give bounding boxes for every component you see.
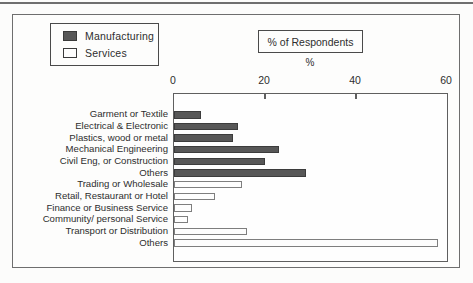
legend-swatch-services [63, 48, 77, 58]
category-label-others-11: Others [0, 237, 168, 248]
bar-manufacturing-garment-or-textile [174, 111, 201, 119]
category-label-finance-or-business-service-8: Finance or Business Service [0, 202, 168, 213]
category-label-community-personal-service-9: Community/ personal Service [0, 213, 168, 224]
chart-title-box: % of Respondents [258, 30, 363, 53]
legend-label-services: Services [85, 47, 127, 59]
plot-area [173, 93, 448, 262]
category-label-trading-or-wholesale-6: Trading or Wholesale [0, 178, 168, 189]
bar-manufacturing-plastics-wood-or-metal [174, 134, 233, 142]
category-label-others-5: Others [0, 167, 168, 178]
bar-services-retail-restaurant-or-hotel [174, 193, 215, 201]
bar-services-transport-or-distribution [174, 228, 247, 236]
category-label-electrical-electronic-1: Electrical & Electronic [0, 120, 168, 131]
category-label-plastics-wood-or-metal-2: Plastics, wood or metal [0, 132, 168, 143]
category-label-mechanical-engineering-3: Mechanical Engineering [0, 143, 168, 154]
legend-item-manufacturing: Manufacturing [63, 30, 158, 42]
legend-swatch-manufacturing [63, 31, 77, 41]
bar-services-others [174, 239, 438, 247]
bar-manufacturing-mechanical-engineering [174, 146, 279, 154]
x-axis-unit-label: % [306, 57, 315, 68]
bar-services-finance-or-business-service [174, 204, 192, 212]
figure-canvas: Manufacturing Services % of Respondents … [0, 0, 473, 283]
bar-manufacturing-civil-eng-or-construction [174, 158, 265, 166]
x-tick-label-20: 20 [258, 74, 270, 86]
bar-services-trading-or-wholesale [174, 181, 242, 189]
category-label-garment-or-textile-0: Garment or Textile [0, 108, 168, 119]
bar-manufacturing-electrical-electronic [174, 123, 238, 131]
category-label-retail-restaurant-or-hotel-7: Retail, Restaurant or Hotel [0, 190, 168, 201]
legend-item-services: Services [63, 47, 158, 59]
axis-tick-20 [264, 94, 265, 99]
axis-tick-40 [355, 94, 356, 99]
chart-title: % of Respondents [268, 36, 354, 48]
x-tick-label-60: 60 [440, 74, 452, 86]
page-rule-line [0, 2, 473, 4]
x-tick-label-0: 0 [170, 74, 176, 86]
legend-box: Manufacturing Services [50, 23, 159, 66]
category-labels: Garment or TextileElectrical & Electroni… [0, 93, 170, 260]
category-label-civil-eng-or-construction-4: Civil Eng, or Construction [0, 155, 168, 166]
legend-label-manufacturing: Manufacturing [85, 30, 154, 42]
bar-manufacturing-others [174, 169, 306, 177]
x-tick-label-40: 40 [349, 74, 361, 86]
bar-services-community-personal-service [174, 216, 188, 224]
category-label-transport-or-distribution-10: Transport or Distribution [0, 225, 168, 236]
